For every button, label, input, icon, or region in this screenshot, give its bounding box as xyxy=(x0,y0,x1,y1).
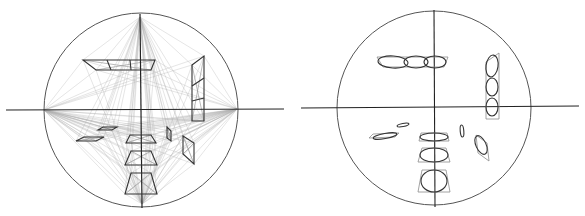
bottom-frame-2 xyxy=(418,148,450,162)
divider-line xyxy=(192,78,204,86)
right-col-ellipse-2 xyxy=(486,78,498,96)
inscribed-ellipses xyxy=(373,54,500,192)
projection-line xyxy=(83,17,140,60)
projection-line xyxy=(76,17,140,141)
bottom-ellipse-3 xyxy=(421,170,447,192)
right-col-frame xyxy=(486,53,499,119)
projection-line xyxy=(140,17,194,164)
perspective-construction-diagram xyxy=(0,0,292,216)
small-right-ellipse xyxy=(460,125,465,137)
bottom-frame-3 xyxy=(418,170,450,192)
projection-line xyxy=(83,60,237,109)
projection-line xyxy=(157,109,237,194)
inscribed-ellipses-diagram xyxy=(293,0,585,216)
left-ellipse-large xyxy=(373,131,398,140)
horizon-line xyxy=(301,106,579,108)
top-row-frame xyxy=(377,57,448,67)
projection-line xyxy=(44,60,155,110)
inscribed-ellipses-panel xyxy=(293,0,585,216)
left-ellipse-small xyxy=(397,122,409,127)
bottom-ellipse-2 xyxy=(420,148,448,162)
projection-line xyxy=(151,70,237,109)
top-row-ellipse-3 xyxy=(424,56,446,68)
vertical-axis xyxy=(434,10,435,207)
bottom-ellipse-1 xyxy=(420,133,448,141)
perspective-construction-panel xyxy=(0,0,292,216)
